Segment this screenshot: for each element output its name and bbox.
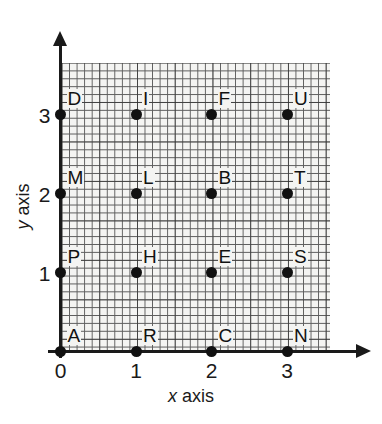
data-point: [206, 267, 217, 278]
data-point-label: M: [67, 168, 85, 187]
y-tick-label: 1: [29, 262, 51, 283]
data-point-label: I: [142, 89, 149, 108]
data-point: [206, 109, 217, 120]
data-point-label: D: [67, 89, 83, 108]
x-axis-title: x axis: [0, 386, 382, 407]
data-point-label: U: [293, 89, 309, 108]
data-point-label: A: [67, 326, 82, 345]
data-point: [282, 267, 293, 278]
data-point-label: E: [218, 247, 233, 266]
data-point: [282, 109, 293, 120]
data-point: [131, 109, 142, 120]
data-point-label: P: [67, 247, 82, 266]
x-axis-variable: x: [168, 386, 177, 406]
y-axis-arrow-icon: [53, 31, 67, 46]
data-point: [55, 109, 66, 120]
data-point-label: T: [293, 168, 307, 187]
x-tick-label: 2: [206, 360, 218, 381]
data-point: [206, 346, 217, 357]
data-point: [131, 346, 142, 357]
x-axis-arrow-icon: [356, 344, 371, 358]
y-axis-title: y axis: [13, 162, 34, 252]
data-point-label: S: [293, 247, 308, 266]
data-point-label: R: [142, 326, 158, 345]
x-tick-label: 0: [55, 360, 67, 381]
x-axis-word: axis: [182, 386, 214, 406]
x-axis-line: [48, 350, 358, 353]
data-point: [131, 267, 142, 278]
y-axis-word: axis: [13, 183, 33, 215]
y-axis-variable: y: [13, 221, 33, 230]
data-point-label: C: [218, 326, 234, 345]
data-point: [282, 188, 293, 199]
x-tick-label: 3: [281, 360, 293, 381]
y-axis-line: [59, 44, 62, 358]
data-point-label: L: [142, 168, 155, 187]
data-point: [55, 346, 66, 357]
coordinate-grid-figure: 0123123 ARCNPHESMLBTDIFU x axis y axis: [0, 0, 382, 424]
y-tick-label: 3: [29, 104, 51, 125]
data-point-label: B: [218, 168, 233, 187]
data-point-label: H: [142, 247, 158, 266]
data-point: [55, 267, 66, 278]
data-point-label: N: [293, 326, 309, 345]
x-tick-label: 1: [130, 360, 142, 381]
data-point-label: F: [218, 89, 232, 108]
data-point: [206, 188, 217, 199]
data-point: [282, 346, 293, 357]
data-point: [131, 188, 142, 199]
data-point: [55, 188, 66, 199]
graph-paper-grid: [62, 63, 330, 352]
